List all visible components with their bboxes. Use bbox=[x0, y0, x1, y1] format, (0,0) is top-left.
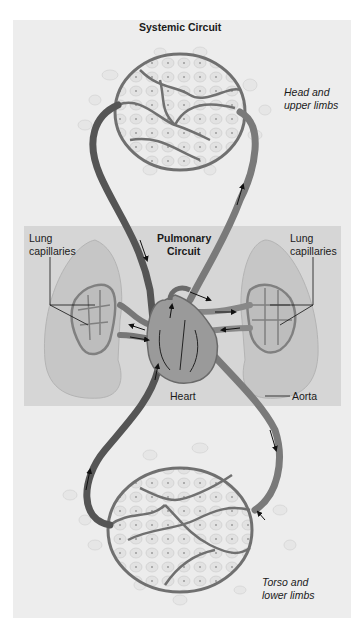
heart-label: Heart bbox=[170, 390, 196, 403]
right-lung bbox=[241, 240, 318, 398]
lower-capillary-bed bbox=[108, 468, 252, 592]
pulmonary-title-line2: Circuit bbox=[167, 245, 200, 258]
head-label-line1: Head and bbox=[284, 86, 330, 99]
right-lung-label-line1: Lung bbox=[290, 232, 313, 245]
pulmonary-title-line1: Pulmonary bbox=[157, 232, 211, 245]
torso-label-line2: lower limbs bbox=[262, 589, 315, 602]
left-lung bbox=[44, 240, 121, 398]
systemic-circuit-title: Systemic Circuit bbox=[139, 21, 221, 34]
head-label-line2: upper limbs bbox=[284, 99, 338, 112]
aorta-label: Aorta bbox=[292, 390, 317, 403]
left-lung-label-line2: capillaries bbox=[29, 245, 76, 258]
upper-capillary-bed bbox=[115, 54, 245, 170]
left-lung-label-line1: Lung bbox=[29, 232, 52, 245]
right-lung-label-line2: capillaries bbox=[290, 245, 337, 258]
torso-label-line1: Torso and bbox=[262, 576, 308, 589]
